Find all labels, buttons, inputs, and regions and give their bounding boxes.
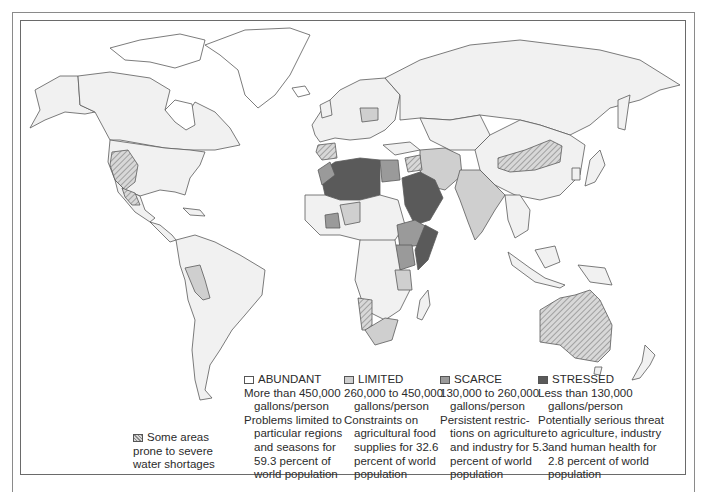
legend-limited-line: 260,000 to 450,000 xyxy=(344,387,443,401)
legend-stressed-line: and human health for xyxy=(538,441,664,455)
legend-limited-line: gallons/person xyxy=(344,400,443,414)
region-southeast-asia xyxy=(505,195,530,238)
region-kamchatka xyxy=(618,95,630,130)
legend-limited-line: Constraints on xyxy=(344,414,443,428)
legend-shortage-line-1: Some areas xyxy=(147,431,209,445)
legend-shortage-line-2: prone to severe xyxy=(133,445,215,459)
region-borneo xyxy=(535,246,560,268)
legend-scarce: SCARCE 130,000 to 260,000 gallons/person… xyxy=(440,373,548,482)
legend-limited-line: population xyxy=(344,468,443,482)
region-japan xyxy=(585,150,605,186)
legend-abundant-line: and seasons for xyxy=(244,441,342,455)
legend-shortage-line-3: water shortages xyxy=(133,458,215,472)
hatch-swatch-icon xyxy=(133,434,143,442)
region-greenland xyxy=(205,28,310,108)
region-madagascar xyxy=(417,290,430,320)
region-caribbean xyxy=(183,208,205,216)
legend-stressed-line: to agriculture, industry xyxy=(538,427,664,441)
legend-scarce-line: population xyxy=(440,468,548,482)
legend-limited-line: percent of world xyxy=(344,455,443,469)
region-poland-limited xyxy=(360,108,378,122)
legend-scarce-line: tions on agriculture xyxy=(440,427,548,441)
limited-swatch-icon xyxy=(344,376,354,384)
legend-stressed-line: gallons/person xyxy=(538,400,664,414)
legend-scarce-line: and industry for 5.3 xyxy=(440,441,548,455)
region-burkina-scarce xyxy=(325,213,340,228)
legend-stressed-line: population xyxy=(538,468,664,482)
legend-abundant-line: More than 450,000 xyxy=(244,387,342,401)
legend-scarce-line: percent of world xyxy=(440,455,548,469)
legend-abundant-line: 59.3 percent of xyxy=(244,455,342,469)
legend-shortage: Some areas prone to severe water shortag… xyxy=(133,431,215,472)
region-korea xyxy=(572,168,580,180)
legend-stressed-label: STRESSED xyxy=(552,373,614,387)
legend-stressed-line: Less than 130,000 xyxy=(538,387,664,401)
legend-scarce-label: SCARCE xyxy=(454,373,502,387)
legend-limited: LIMITED 260,000 to 450,000 gallons/perso… xyxy=(344,373,443,482)
region-tanzania-limited xyxy=(395,270,412,290)
scarce-swatch-icon xyxy=(440,376,450,384)
legend-limited-line: agricultural food xyxy=(344,427,443,441)
region-central-america xyxy=(150,222,176,242)
region-arctic-islands xyxy=(110,34,205,68)
stressed-swatch-icon xyxy=(538,376,548,384)
legend-abundant-line: gallons/person xyxy=(244,400,342,414)
shortage-namibia xyxy=(358,298,372,330)
legend-abundant-label: ABUNDANT xyxy=(258,373,321,387)
legend-abundant-line: world population xyxy=(244,468,342,482)
legend-limited-label: LIMITED xyxy=(358,373,403,387)
legend-stressed-line: 2.8 percent of world xyxy=(538,455,664,469)
shortage-spain xyxy=(316,143,337,160)
shortage-australia xyxy=(540,290,612,362)
legend-scarce-line: Persistent restric- xyxy=(440,414,548,428)
legend-stressed: STRESSED Less than 130,000 gallons/perso… xyxy=(538,373,664,482)
legend-abundant: ABUNDANT More than 450,000 gallons/perso… xyxy=(244,373,342,482)
legend-stressed-line: Potentially serious threat xyxy=(538,414,664,428)
region-central-asia xyxy=(420,115,490,150)
region-new-guinea xyxy=(578,265,612,285)
region-uk xyxy=(320,100,332,118)
legend-abundant-line: particular regions xyxy=(244,427,342,441)
legend-scarce-line: gallons/person xyxy=(440,400,548,414)
legend-limited-line: supplies for 32.6 xyxy=(344,441,443,455)
abundant-swatch-icon xyxy=(244,376,254,384)
region-turkey xyxy=(383,142,420,155)
region-canada xyxy=(78,72,240,150)
region-egypt-scarce xyxy=(380,160,400,182)
shortage-iraq xyxy=(405,155,422,172)
region-iceland xyxy=(292,86,310,97)
legend-abundant-line: Problems limited to xyxy=(244,414,342,428)
legend-scarce-line: 130,000 to 260,000 xyxy=(440,387,548,401)
